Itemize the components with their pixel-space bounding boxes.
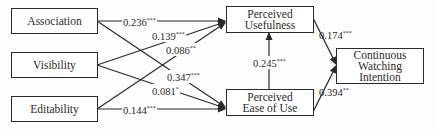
edge-label-peou-cwi: 0.394**	[318, 85, 350, 98]
node-label-line1: Continuous	[353, 50, 406, 61]
node-label-line2: Ease of Use	[243, 103, 298, 114]
node-label: Editability	[30, 104, 79, 115]
node-label-line1: Perceived	[247, 92, 292, 103]
edge-label-association-peou: 0.347***	[166, 70, 201, 83]
path-model-diagram: Association Visibility Editability Perce…	[0, 0, 435, 133]
node-label-line1: Perceived	[247, 9, 292, 20]
node-label-line3: Intention	[359, 72, 401, 83]
node-label: Visibility	[33, 60, 76, 71]
node-visibility: Visibility	[11, 52, 98, 78]
edge-label-pu-cwi: 0.174***	[318, 28, 353, 41]
edge-label-visibility-pu: 0.139***	[151, 29, 186, 42]
node-perceived-ease-of-use: Perceived Ease of Use	[226, 89, 314, 116]
node-label-line2: Usefulness	[245, 20, 295, 31]
node-editability: Editability	[11, 96, 98, 122]
edge-label-visibility-peou: 0.081*	[151, 84, 180, 97]
node-label-line2: Watching	[358, 61, 402, 72]
edge-label-association-pu: 0.236***	[122, 15, 157, 28]
edge-label-editability-peou: 0.144***	[122, 103, 157, 116]
node-association: Association	[11, 8, 98, 34]
node-label: Association	[27, 16, 81, 27]
node-perceived-usefulness: Perceived Usefulness	[226, 6, 314, 33]
edge-label-editability-pu: 0.086**	[165, 43, 197, 56]
node-continuous-watching-intention: Continuous Watching Intention	[336, 48, 424, 84]
edge-label-peou-pu: 0.245***	[252, 56, 287, 69]
